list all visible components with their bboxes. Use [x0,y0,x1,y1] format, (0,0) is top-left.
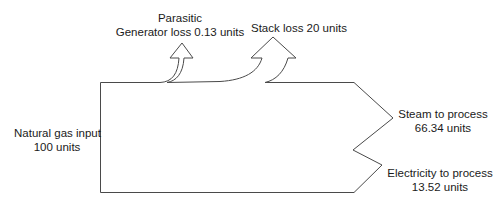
parasitic-loss-label: Parasitic Generator loss 0.13 units [110,11,250,39]
electricity-output-title: Electricity to process [384,166,496,180]
steam-output-value: 66.34 units [393,121,493,135]
input-label: Natural gas input 100 units [14,126,100,154]
input-title: Natural gas input [14,126,100,140]
electricity-output-value: 13.52 units [384,180,496,194]
input-value: 100 units [14,140,100,154]
electricity-output-label: Electricity to process 13.52 units [384,166,496,194]
stack-loss-label: Stack loss 20 units [251,21,347,35]
parasitic-loss-title: Parasitic [110,11,250,25]
main-flow-outline [101,83,394,193]
stack-loss-arrow [251,37,296,83]
parasitic-loss-value: Generator loss 0.13 units [110,25,250,39]
steam-output-title: Steam to process [393,107,493,121]
input-top-edge [101,58,180,83]
steam-output-label: Steam to process 66.34 units [393,107,493,135]
parasitic-loss-arrow [167,43,193,83]
